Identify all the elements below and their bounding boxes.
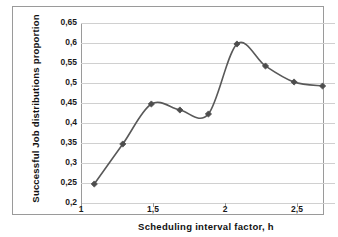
x-tick-label-3: 2,5 — [284, 205, 310, 214]
y-axis-title: Successful Job distributions proportion — [30, 14, 41, 204]
gridline-0-65 — [81, 23, 335, 24]
gridline-0-25 — [81, 183, 335, 184]
gridline-0-40 — [81, 123, 335, 124]
x-tick-label-2: 2 — [212, 205, 238, 214]
y-tick-label-2: 0,55 — [47, 58, 77, 67]
gridline-0-60 — [81, 43, 335, 44]
chart-page: 0,65 0,6 0,55 0,5 0,45 0,4 0,35 0,3 0,25… — [0, 0, 338, 237]
gridline-0-50 — [81, 83, 335, 84]
y-axis-tick-labels: 0,65 0,6 0,55 0,5 0,45 0,4 0,35 0,3 0,25… — [45, 7, 77, 216]
y-tick-label-5: 0,4 — [47, 118, 77, 127]
gridline-0-45 — [81, 103, 335, 104]
gridline-0-55 — [81, 63, 335, 64]
x-tick-label-0: 1 — [68, 205, 94, 214]
y-tick-label-1: 0,6 — [47, 38, 77, 47]
y-tick-label-4: 0,45 — [47, 98, 77, 107]
chart-frame: 0,65 0,6 0,55 0,5 0,45 0,4 0,35 0,3 0,25… — [12, 6, 324, 215]
x-tick-label-1: 1,5 — [140, 205, 166, 214]
y-tick-label-6: 0,35 — [47, 138, 77, 147]
y-tick-label-7: 0,3 — [47, 158, 77, 167]
x-axis-title: Scheduling interval factor, h — [73, 221, 338, 232]
gridline-0-30 — [81, 163, 335, 164]
y-tick-label-8: 0,25 — [47, 178, 77, 187]
gridline-0-35 — [81, 143, 335, 144]
y-tick-label-3: 0,5 — [47, 78, 77, 87]
y-tick-label-0: 0,65 — [47, 18, 77, 27]
plot-area — [81, 23, 335, 203]
